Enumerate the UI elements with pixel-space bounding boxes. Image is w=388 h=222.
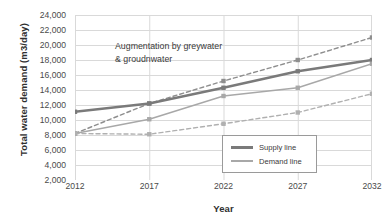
augmentation-annotation: Augmentation by greywater & groudnwater [115,40,222,65]
legend-swatch-demand-icon [231,160,253,162]
x-tick-label: 2012 [65,181,84,191]
annotation-line-2: & groudnwater [115,53,222,66]
y-tick-label: 16,000 [40,70,66,80]
legend-swatch-supply-icon [231,146,253,149]
y-tick-label: 20,000 [40,40,66,50]
x-tick-label: 2032 [362,181,381,191]
y-tick-label: 24,000 [40,10,66,20]
y-tick-label: 8,000 [44,130,66,140]
data-point-marker [221,94,225,98]
y-tick-label: 10,000 [40,115,66,125]
data-point-marker [296,69,300,73]
legend-item-demand-line: Demand line [223,154,316,168]
data-point-marker [221,86,225,90]
legend-item-supply-line: Supply line [223,140,316,154]
data-point-marker [370,35,372,39]
y-tick-label: 4,000 [44,160,66,170]
y-tick-label: 18,000 [40,55,66,65]
x-axis-title: Year [75,203,372,214]
data-point-marker [147,101,151,105]
data-point-marker [221,122,225,126]
y-tick-label: 6,000 [44,145,66,155]
data-point-marker [296,110,300,114]
data-point-marker [75,110,77,114]
data-point-marker [370,58,372,62]
water-demand-chart: Total water demand (m3/day) 24,00022,000… [0,0,388,222]
y-tick-label: 22,000 [40,25,66,35]
data-point-marker [147,117,151,121]
data-point-marker [370,92,372,96]
x-tick-label: 2027 [288,181,307,191]
data-point-marker [296,86,300,90]
y-tick-label: 14,000 [40,85,66,95]
y-tick-label: 12,000 [40,100,66,110]
x-tick-label: 2017 [140,181,159,191]
x-tick-label: 2022 [214,181,233,191]
legend-label-demand: Demand line [259,157,302,166]
annotation-line-1: Augmentation by greywater [115,40,222,53]
legend-label-supply: Supply line [259,143,296,152]
chart-legend: Supply line Demand line [222,135,317,173]
data-point-marker [75,131,77,135]
data-point-marker [370,62,372,66]
x-axis-tick-labels: 20122017202220272032 [0,181,388,197]
data-point-marker [147,132,151,136]
data-point-marker [296,58,300,62]
data-point-marker [221,79,225,83]
